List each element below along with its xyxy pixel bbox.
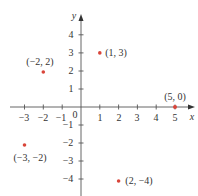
y-tick-label: 1	[69, 84, 74, 94]
y-axis-arrow-icon	[79, 14, 84, 21]
y-tick-label: −2	[63, 138, 74, 148]
point-neg2-2	[42, 70, 46, 74]
point-2-neg4	[117, 179, 121, 183]
x-tick-label: 4	[154, 113, 159, 123]
y-tick-label: −4	[63, 174, 74, 184]
point-label: (2, −4)	[125, 176, 152, 186]
x-tick-label: 3	[135, 113, 140, 123]
point-label: (−3, −2)	[14, 153, 47, 163]
x-tick-label: −3	[19, 113, 30, 123]
x-axis-label: x	[190, 112, 194, 122]
x-tick-label: 2	[117, 113, 122, 123]
point-label: (5, 0)	[164, 92, 186, 102]
point-label: (−2, 2)	[26, 57, 53, 67]
y-tick-label: 2	[69, 66, 74, 76]
y-axis-label: y	[72, 11, 76, 21]
y-tick-label: −3	[63, 156, 74, 166]
point-label: (1, 3)	[105, 48, 127, 58]
point-5-0	[173, 105, 177, 109]
point-1-3	[98, 51, 102, 55]
point-neg3-neg2	[23, 143, 27, 147]
y-tick-label: −1	[63, 120, 74, 130]
y-tick-label: 3	[69, 48, 74, 58]
x-tick-label: 5	[173, 113, 178, 123]
x-axis-arrow-icon	[188, 105, 195, 110]
x-tick-label: 1	[98, 113, 103, 123]
x-tick-label: −2	[38, 113, 49, 123]
y-tick-label: 4	[69, 30, 74, 40]
